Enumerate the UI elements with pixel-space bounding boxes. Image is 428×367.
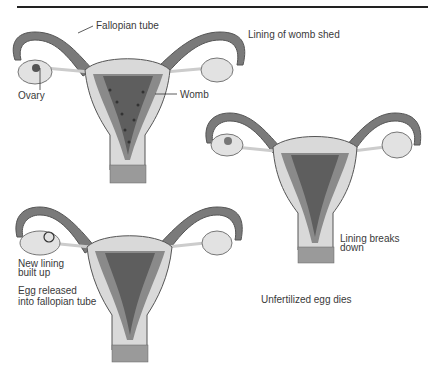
caption-new-lining-line2: built up <box>18 268 50 278</box>
caption-egg-released-line2: into fallopian tube <box>18 297 96 307</box>
label-fallopian-tube: Fallopian tube <box>96 21 159 31</box>
caption-egg-released-line1: Egg released <box>18 286 77 296</box>
caption-unfertilized-egg: Unfertilized egg dies <box>261 295 352 305</box>
label-womb: Womb <box>180 90 209 100</box>
leader-lines <box>0 0 428 367</box>
caption-lining-breaks-line2: down <box>340 243 364 253</box>
label-ovary: Ovary <box>18 91 45 101</box>
caption-lining-shed: Lining of womb shed <box>248 30 340 40</box>
